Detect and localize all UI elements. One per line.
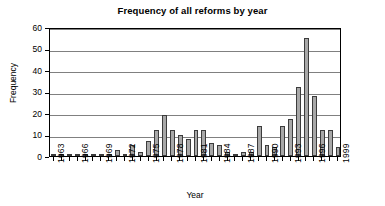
y-tick-mark — [45, 136, 49, 137]
x-tick-mark — [242, 157, 243, 161]
x-tick-mark — [124, 157, 125, 161]
bar — [304, 38, 309, 156]
x-tick-mark — [313, 157, 314, 161]
x-tick-mark — [203, 157, 204, 161]
x-tick-mark — [337, 157, 338, 161]
bar — [67, 154, 72, 156]
x-tick-mark — [219, 157, 220, 161]
bar — [186, 139, 191, 156]
bar — [280, 126, 285, 156]
x-tick-mark — [179, 157, 180, 161]
x-tick-mark — [100, 157, 101, 161]
y-tick-label: 10 — [2, 131, 42, 139]
bar — [99, 154, 104, 156]
x-tick-mark — [250, 157, 251, 161]
bar — [233, 154, 238, 156]
chart-page: Frequency of all reforms by year Frequen… — [0, 0, 385, 206]
x-tick-mark — [53, 157, 54, 161]
x-tick-mark — [85, 157, 86, 161]
x-tick-mark — [211, 157, 212, 161]
x-tick-mark — [171, 157, 172, 161]
plot-inner — [50, 29, 340, 156]
x-tick-mark — [163, 157, 164, 161]
x-tick-mark — [69, 157, 70, 161]
x-tick-mark — [305, 157, 306, 161]
bar — [265, 145, 270, 156]
bar — [162, 115, 167, 156]
y-tick-mark — [45, 157, 49, 158]
bar — [194, 130, 199, 156]
plot-area — [49, 28, 341, 157]
x-tick-mark — [108, 157, 109, 161]
x-tick-label: 1999 — [341, 143, 351, 163]
x-tick-mark — [298, 157, 299, 161]
x-tick-mark — [227, 157, 228, 161]
x-tick-mark — [116, 157, 117, 161]
y-tick-mark — [45, 28, 49, 29]
y-tick-label: 50 — [2, 45, 42, 53]
x-tick-mark — [234, 157, 235, 161]
x-tick-mark — [274, 157, 275, 161]
x-tick-mark — [77, 157, 78, 161]
bar — [209, 143, 214, 156]
x-tick-mark — [329, 157, 330, 161]
bar — [91, 154, 96, 156]
x-tick-mark — [132, 157, 133, 161]
x-tick-mark — [195, 157, 196, 161]
y-axis-label: Frequency — [8, 48, 18, 118]
y-tick-label: 0 — [2, 153, 42, 161]
x-tick-mark — [61, 157, 62, 161]
bar — [336, 147, 341, 156]
x-tick-mark — [258, 157, 259, 161]
x-tick-mark — [156, 157, 157, 161]
y-tick-label: 20 — [2, 110, 42, 118]
y-tick-label: 30 — [2, 88, 42, 96]
x-tick-mark — [92, 157, 93, 161]
x-tick-mark — [282, 157, 283, 161]
bar — [115, 150, 120, 156]
chart-title: Frequency of all reforms by year — [0, 5, 385, 16]
x-tick-mark — [140, 157, 141, 161]
y-tick-mark — [45, 114, 49, 115]
y-tick-mark — [45, 93, 49, 94]
x-tick-mark — [148, 157, 149, 161]
bar-series — [50, 29, 340, 156]
x-tick-mark — [187, 157, 188, 161]
y-tick-label: 40 — [2, 67, 42, 75]
bar — [257, 126, 262, 156]
x-tick-mark — [321, 157, 322, 161]
y-tick-label: 60 — [2, 24, 42, 32]
y-tick-mark — [45, 50, 49, 51]
x-tick-mark — [266, 157, 267, 161]
bar — [138, 152, 143, 156]
x-axis-label: Year — [49, 190, 341, 200]
x-tick-mark — [290, 157, 291, 161]
bar — [328, 130, 333, 156]
y-tick-mark — [45, 71, 49, 72]
